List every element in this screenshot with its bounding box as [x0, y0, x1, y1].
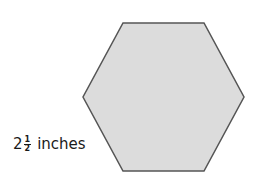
- hexagon-figure: 2 1 2 inches: [0, 0, 263, 186]
- side-length-whole: 2: [13, 135, 23, 153]
- side-length-fraction: 1 2: [24, 136, 32, 153]
- fraction-denominator: 2: [25, 145, 31, 153]
- hexagon-shape: [0, 0, 263, 186]
- side-length-unit: inches: [37, 135, 85, 153]
- side-length-label: 2 1 2 inches: [13, 135, 86, 153]
